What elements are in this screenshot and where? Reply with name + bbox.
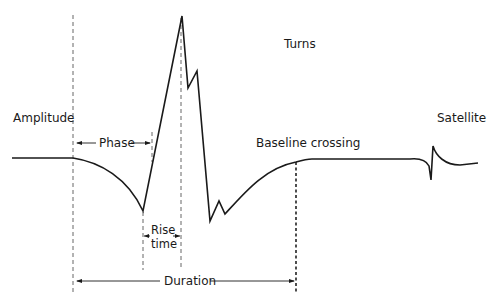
satellite-label: Satellite (437, 112, 486, 124)
rise-label: Rise (151, 225, 175, 237)
time-label: time (151, 239, 177, 251)
phase-label: Phase (99, 137, 135, 149)
duration-label: Duration (164, 275, 216, 287)
amplitude-label: Amplitude (13, 112, 75, 124)
turns-label: Turns (284, 38, 316, 50)
baseline-crossing-label: Baseline crossing (256, 137, 360, 149)
action-potential-trace (12, 16, 478, 221)
waveform-diagram (0, 0, 490, 305)
